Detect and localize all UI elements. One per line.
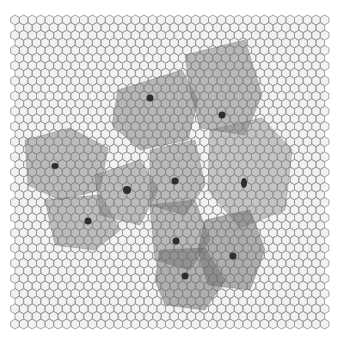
nucleus: [219, 112, 226, 119]
nucleus: [123, 186, 131, 194]
nucleus: [147, 95, 154, 102]
nucleus: [172, 178, 179, 185]
nucleus: [85, 218, 92, 225]
nucleus: [182, 273, 189, 280]
nucleus: [230, 253, 237, 260]
nucleus: [241, 178, 247, 188]
nucleus: [173, 238, 180, 245]
nucleus: [52, 163, 59, 169]
cell-mesh-figure: [0, 0, 345, 352]
